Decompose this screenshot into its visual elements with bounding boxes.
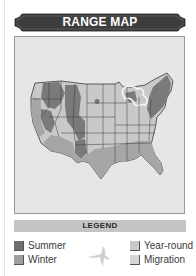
bird-in-flight-icon	[86, 244, 114, 268]
us-range-map	[15, 37, 186, 215]
legend-label-winter: Winter	[28, 254, 57, 265]
migration-swatch	[130, 255, 140, 265]
page-edge-divider	[4, 0, 5, 276]
legend-item-summer: Summer	[14, 240, 66, 251]
title-banner: RANGE MAP	[14, 13, 186, 32]
page-title: RANGE MAP	[14, 13, 186, 32]
legend-label-migration: Migration	[144, 254, 185, 265]
legend-title: LEGEND	[14, 220, 186, 232]
range-map-panel	[14, 36, 185, 214]
legend-label-year-round: Year-round	[144, 240, 193, 251]
legend-item-migration: Migration	[130, 254, 185, 265]
legend-label-summer: Summer	[28, 240, 66, 251]
legend-item-year-round: Year-round	[130, 240, 193, 251]
winter-swatch	[14, 255, 24, 265]
legend-item-winter: Winter	[14, 254, 57, 265]
summer-swatch	[14, 241, 24, 251]
year-round-swatch	[130, 241, 140, 251]
